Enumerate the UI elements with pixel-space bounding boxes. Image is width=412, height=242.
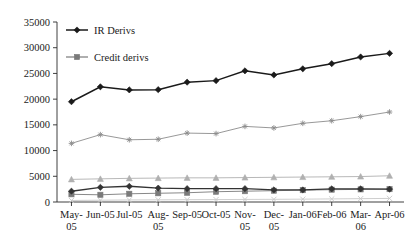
data-point-marker <box>213 131 219 137</box>
y-axis-tick-label: 0 <box>45 197 50 208</box>
y-axis-tick-label: 20000 <box>24 94 50 105</box>
x-axis-tick-label: Apr-06 <box>374 209 404 220</box>
data-point-marker <box>300 66 306 72</box>
data-point-marker <box>126 183 132 189</box>
data-point-marker <box>68 99 74 105</box>
data-point-marker <box>271 72 277 78</box>
data-point-marker <box>329 118 335 124</box>
chart-canvas: 05000100001500020000250003000035000May-0… <box>0 0 412 242</box>
data-point-marker <box>74 54 79 59</box>
data-point-marker <box>126 137 132 143</box>
data-point-marker <box>387 109 393 115</box>
x-axis-tick-label: May-05 <box>60 209 83 232</box>
data-point-marker <box>386 50 392 56</box>
data-point-marker <box>184 130 190 136</box>
x-axis-tick-label: Dec-05 <box>264 209 285 232</box>
x-axis-tick-label: Feb-06 <box>317 209 347 220</box>
legend-marker <box>74 54 79 59</box>
data-point-marker <box>97 184 103 190</box>
data-point-marker <box>271 125 277 131</box>
y-axis-tick-label: 25000 <box>24 68 50 79</box>
x-axis-tick-label: Jun-05 <box>86 209 115 220</box>
data-point-marker <box>242 68 248 74</box>
series-unlabeled-4 <box>68 183 392 194</box>
series-line <box>71 186 389 191</box>
data-point-marker <box>213 78 219 84</box>
series-line <box>71 198 389 200</box>
x-axis-tick-label: Sep-05 <box>172 209 202 220</box>
data-point-marker <box>155 136 161 142</box>
x-axis-tick-label: Jul-05 <box>116 209 142 220</box>
data-point-marker <box>358 54 364 60</box>
data-point-marker <box>242 124 248 130</box>
data-point-marker <box>98 192 103 197</box>
series-line <box>71 112 389 143</box>
legend-marker <box>74 27 80 33</box>
x-axis-tick-label: Nov-05 <box>234 209 256 232</box>
y-axis-tick-label: 15000 <box>24 119 50 130</box>
y-axis-tick-label: 35000 <box>24 17 50 28</box>
data-point-marker <box>358 114 364 120</box>
data-point-marker <box>97 84 103 90</box>
y-axis-tick-label: 10000 <box>24 145 50 156</box>
data-point-marker <box>74 27 80 33</box>
data-point-marker <box>98 132 104 138</box>
series-line <box>71 176 389 180</box>
series-unlabeled-3 <box>68 173 392 182</box>
data-point-marker <box>329 61 335 67</box>
data-point-marker <box>127 191 132 196</box>
data-point-marker <box>300 121 306 127</box>
y-axis-tick-label: 30000 <box>24 42 50 53</box>
data-point-marker <box>69 141 75 147</box>
legend-item-label: Credit derivs <box>94 52 149 63</box>
data-point-marker <box>184 79 190 85</box>
legend-item-label: IR Derivs <box>94 25 135 36</box>
x-axis-tick-label: Oct-05 <box>201 209 230 220</box>
data-point-marker <box>155 87 161 93</box>
x-axis-tick-label: Aug-05 <box>147 209 169 232</box>
x-axis-tick-label: Mar-06 <box>350 209 371 232</box>
line-chart: 05000100001500020000250003000035000May-0… <box>0 0 412 242</box>
series-line <box>71 189 389 195</box>
series-unlabeled-2 <box>69 109 393 146</box>
y-axis-tick-label: 5000 <box>29 171 50 182</box>
x-axis-tick-label: Jan-06 <box>289 209 317 220</box>
chart-legend: IR DerivsCredit derivs <box>66 25 149 63</box>
data-point-marker <box>126 87 132 93</box>
data-point-marker <box>155 185 161 191</box>
